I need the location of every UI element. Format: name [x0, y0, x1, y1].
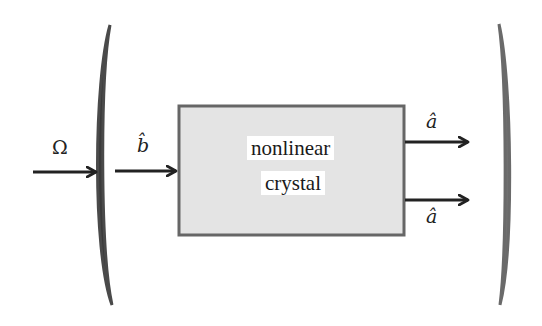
output-label-bottom: â [426, 205, 437, 227]
left-mirror [98, 25, 113, 305]
input-mode-label: b̂ [137, 134, 149, 156]
right-mirror [499, 24, 510, 305]
crystal-label-line2: crystal [261, 171, 325, 195]
diagram-canvas [0, 0, 542, 326]
output-label-top: â [426, 110, 437, 132]
pump-label: Ω [52, 136, 68, 158]
crystal-label-line1: nonlinear [247, 136, 334, 160]
